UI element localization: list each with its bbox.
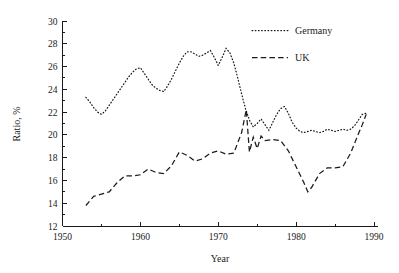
x-tick-label: 1950 <box>53 232 72 242</box>
x-axis-tick-labels: 19501960197019801990 <box>53 232 384 242</box>
x-tick-label: 1990 <box>365 232 384 242</box>
y-axis-label: Ratio, % <box>11 107 22 142</box>
legend: Germany UK <box>252 25 332 63</box>
series-line-uk <box>86 110 366 206</box>
plot-axes <box>63 21 379 227</box>
x-axis-ticks <box>63 222 375 226</box>
y-tick-label: 12 <box>48 222 58 232</box>
y-tick-label: 28 <box>48 39 58 49</box>
legend-label-germany: Germany <box>295 25 332 36</box>
x-axis-label: Year <box>211 253 230 264</box>
y-tick-label: 22 <box>48 108 58 118</box>
y-axis-tick-labels: 12141618202224262830 <box>48 17 58 232</box>
y-tick-label: 14 <box>48 199 58 209</box>
y-tick-label: 26 <box>48 62 58 72</box>
y-tick-label: 16 <box>48 176 58 186</box>
series-line-germany <box>86 48 366 132</box>
y-tick-label: 18 <box>48 153 58 163</box>
x-tick-label: 1960 <box>131 232 150 242</box>
line-chart-figure: 12141618202224262830 1950196019701980199… <box>0 0 399 273</box>
y-tick-label: 20 <box>48 130 58 140</box>
y-tick-label: 24 <box>48 85 58 95</box>
legend-label-uk: UK <box>295 52 310 63</box>
y-axis-ticks <box>63 21 67 226</box>
y-tick-label: 30 <box>48 17 58 27</box>
x-tick-label: 1980 <box>287 232 306 242</box>
x-tick-label: 1970 <box>209 232 228 242</box>
